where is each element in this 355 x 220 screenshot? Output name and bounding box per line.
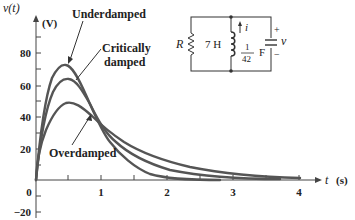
x-tick-1: 1	[98, 186, 104, 198]
y-axis-arrow-icon	[33, 15, 39, 22]
current-arrowhead-icon	[238, 21, 242, 26]
y-tick-80: 80	[20, 47, 32, 59]
x-tick-0: 0	[26, 186, 32, 198]
node-bottom	[229, 69, 233, 73]
overdamped-arrow-icon	[86, 114, 92, 121]
x-axis-unit: (s)	[336, 174, 348, 187]
y-axis-unit: (V)	[42, 17, 58, 30]
y-axis-label: v(t)	[3, 1, 20, 15]
current-label: i	[245, 21, 248, 33]
capacitance-unit: F	[259, 46, 265, 58]
overdamped-label: Overdamped	[49, 146, 117, 160]
rlc-circuit	[187, 17, 277, 71]
node-top	[229, 15, 233, 19]
voltage-label: v	[281, 34, 287, 48]
y-tick-neg20: −20	[14, 206, 32, 218]
underdamped-label: Underdamped	[72, 7, 146, 21]
critically-damped-label-1: Critically	[102, 41, 151, 55]
x-tick-4: 4	[296, 186, 302, 198]
plus-sign: +	[274, 24, 280, 35]
critically-damped-label-2: damped	[104, 55, 146, 69]
y-tick-40: 40	[20, 111, 32, 123]
x-axis-label: t	[325, 173, 329, 187]
rlc-response-diagram: v(t) (V) t (s) 80 60 40 20 −20 0 1 2 3 4…	[0, 0, 355, 220]
critically-damped-curve	[36, 79, 280, 180]
x-axis-arrow-icon	[315, 177, 322, 183]
x-tick-2: 2	[164, 186, 170, 198]
resistor-label: R	[175, 37, 184, 51]
underdamped-pointer	[70, 21, 83, 60]
inductor-label: 7 H	[205, 38, 221, 50]
minus-sign: −	[274, 49, 280, 60]
y-tick-20: 20	[20, 143, 32, 155]
critically-damped-pointer	[76, 49, 101, 80]
y-tick-60: 60	[20, 80, 32, 92]
capacitance-denominator: 42	[242, 54, 251, 64]
x-tick-3: 3	[230, 186, 236, 198]
capacitance-numerator: 1	[245, 42, 250, 52]
overdamped-pointer	[72, 118, 89, 145]
underdamped-curve	[36, 65, 220, 180]
